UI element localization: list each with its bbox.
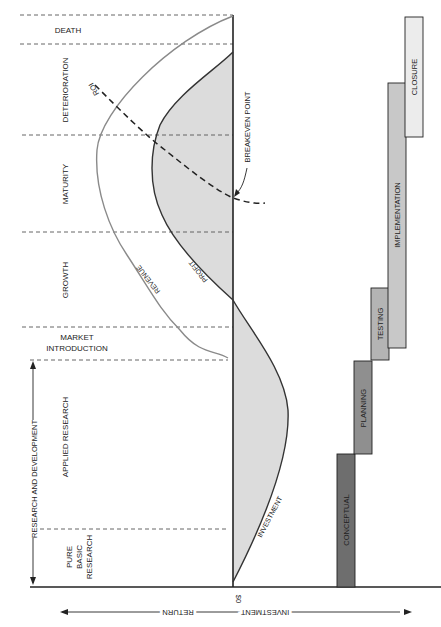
roi-label: ROI [87, 81, 101, 97]
phase-label-pure-2: BASIC [75, 545, 84, 569]
bar-label-closure: CLOSURE [410, 59, 419, 95]
rd-arrowhead-bottom [30, 577, 36, 585]
rd-span-label: RESEARCH AND DEVELOPMENT [30, 420, 39, 538]
phase-label-market-1: MARKET [60, 333, 93, 342]
phase-label-applied: APPLIED RESEARCH [61, 397, 70, 478]
breakeven-label: BREAKEVEN POINT [243, 91, 252, 162]
return-arrowhead [60, 609, 68, 615]
phase-label-growth: GROWTH [61, 262, 70, 299]
revenue-label: REVENUE [135, 264, 162, 295]
investment-axis-label: INVESTMENT [240, 608, 289, 617]
bar-label-testing: TESTING [376, 308, 385, 341]
phase-label-death: DEATH [55, 26, 82, 35]
breakeven-arrow [236, 168, 247, 194]
phase-label-maturity: MATURITY [61, 163, 70, 204]
phase-label-pure-1: PURE [65, 546, 74, 568]
investment-arrowhead [404, 609, 412, 615]
return-label: RETURN [162, 608, 193, 617]
phase-label-pure-3: RESEARCH [85, 535, 94, 580]
life-cycle-diagram: DEATH DETERIORATION MATURITY GROWTH MARK… [0, 0, 441, 627]
bar-label-conceptual: CONCEPTUAL [342, 494, 351, 545]
phase-label-deterioration: DETERIORATION [61, 57, 70, 122]
phase-label-market-2: INTRODUCTION [46, 344, 108, 353]
bar-label-planning: PLANNING [359, 389, 368, 428]
zero-label: $0 [234, 595, 243, 603]
bar-label-implementation: IMPLEMENTATION [393, 182, 402, 248]
rd-arrowhead-top [30, 361, 36, 369]
